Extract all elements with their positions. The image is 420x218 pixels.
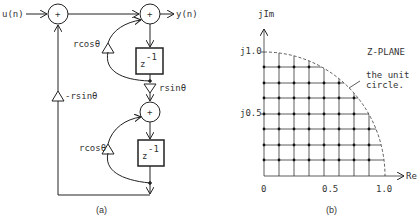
y-axis-label: jIm: [258, 9, 274, 19]
annotation-line-1: the unit: [366, 70, 409, 80]
figure: u(n) y(n) + + + z -1 z -1 rcosθ rcosθ rs…: [0, 0, 420, 218]
x-axis-label: Re: [406, 171, 417, 181]
x-tick-0: 0: [261, 184, 266, 194]
gain-neg-rsin-triangle: [52, 91, 64, 101]
adder-1-symbol: +: [55, 9, 61, 19]
annotation-pointer: [349, 81, 360, 88]
gain-rsin-label: rsinθ: [159, 83, 186, 93]
delay-1-base: z: [140, 59, 145, 69]
annotation-line-2: circle.: [366, 80, 404, 90]
gain-rcos-top-triangle: [102, 43, 114, 53]
x-tick-1: 1.0: [376, 184, 392, 194]
gain-rcos-bottom-label: rcosθ: [79, 143, 106, 153]
grid: [264, 40, 390, 176]
delay-2-base: z: [142, 151, 147, 161]
caption-a: (a): [96, 205, 107, 215]
y-tick-1: j1.0: [240, 46, 262, 56]
y-tick-0-5: j0.5: [240, 108, 262, 118]
input-label: u(n): [2, 9, 24, 19]
caption-b: (b): [326, 205, 337, 215]
adder-2-symbol: +: [147, 9, 153, 19]
adder-3-symbol: +: [147, 107, 153, 117]
x-tick-0-5: 0.5: [322, 184, 338, 194]
gain-neg-rsin-label: -rsinθ: [65, 91, 98, 101]
gain-rsin-triangle: [144, 84, 156, 93]
output-label: y(n): [176, 9, 198, 19]
delay-1-exp: -1: [146, 52, 157, 62]
gain-rcos-top-label: rcosθ: [73, 39, 100, 49]
signal-flow-diagram: [26, 4, 174, 195]
delay-2-exp: -1: [148, 144, 159, 154]
plot-title: Z-PLANE: [367, 47, 405, 57]
